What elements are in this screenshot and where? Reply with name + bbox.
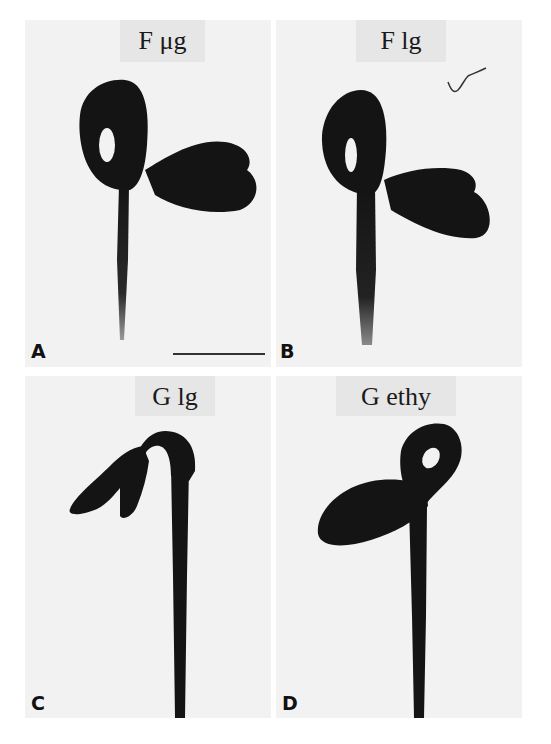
panel-a: F μg A (25, 20, 271, 367)
panel-d-letter: D (282, 692, 298, 714)
panel-b-letter: B (280, 340, 294, 362)
panel-c: G lg C (25, 376, 271, 718)
scale-bar (173, 353, 265, 355)
panel-a-letter: A (31, 340, 46, 362)
seedling-c-image (25, 376, 271, 718)
panel-d: G ethy D (276, 376, 522, 718)
panel-b: F lg B (276, 20, 522, 367)
panel-b-label: F lg (356, 20, 446, 62)
panel-d-label: G ethy (336, 376, 456, 416)
seedling-b-image (276, 20, 522, 367)
panel-a-label: F μg (120, 20, 205, 62)
panel-c-label: G lg (135, 376, 215, 416)
seedling-a-image (25, 20, 271, 367)
seedling-d-image (276, 376, 522, 718)
panel-c-letter: C (31, 692, 45, 714)
